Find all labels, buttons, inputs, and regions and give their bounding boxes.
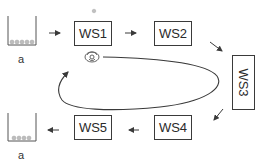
parts-icon [10, 40, 34, 44]
ws2-label: WS2 [159, 26, 187, 41]
input-bin-label: a [18, 53, 24, 65]
ws4-label: WS4 [159, 120, 187, 135]
parts-icon [12, 136, 31, 140]
ws5-label: WS5 [79, 120, 107, 135]
workstation-ws4[interactable]: WS4 [154, 115, 192, 140]
diagram-canvas [0, 0, 264, 165]
arrow-ws3-to-ws4 [214, 109, 223, 120]
arrow-ws2-to-ws3 [210, 42, 222, 51]
ws3-label: WS3 [236, 68, 251, 96]
output-bin-label: a [18, 149, 24, 161]
sensor-dot-icon [92, 9, 96, 13]
output-bin [8, 113, 36, 141]
input-bin [8, 16, 36, 45]
workstation-ws3[interactable]: WS3 [232, 55, 255, 110]
workstation-ws1[interactable]: WS1 [74, 21, 112, 46]
robot-gripper-icon [85, 52, 99, 62]
ws1-label: WS1 [79, 26, 107, 41]
workstation-ws2[interactable]: WS2 [154, 21, 192, 46]
workstation-ws5[interactable]: WS5 [74, 115, 112, 140]
transport-loop [59, 57, 219, 110]
